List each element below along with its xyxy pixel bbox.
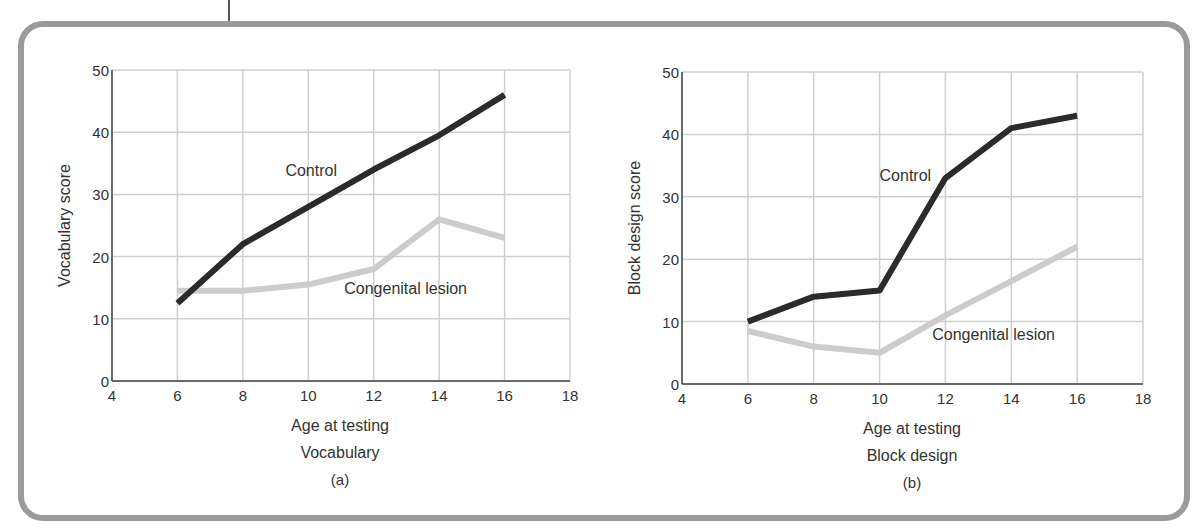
y-tick-label: 30 (92, 186, 109, 203)
x-tick-label: 4 (678, 390, 686, 407)
y-tick-label: 20 (662, 251, 679, 268)
x-tick-label: 18 (1135, 390, 1152, 407)
series-line-control (748, 116, 1077, 322)
series-line-control (177, 95, 504, 303)
x-tick-label: 16 (496, 387, 513, 404)
chart-panel-vocabulary: 468101214161801020304050Vocabulary score… (56, 62, 578, 488)
x-tick-label: 16 (1069, 390, 1086, 407)
panel-label: (a) (331, 471, 349, 488)
y-tick-label: 20 (92, 249, 109, 266)
x-tick-label: 8 (810, 390, 818, 407)
y-tick-label: 10 (662, 314, 679, 331)
figure-frame (21, 24, 1187, 518)
series-label-congenital-lesion: Congenital lesion (344, 280, 467, 297)
y-tick-label: 0 (671, 376, 679, 393)
chart-panel-block-design: 468101214161801020304050Block design sco… (626, 64, 1151, 491)
x-tick-label: 6 (744, 390, 752, 407)
y-tick-label: 30 (662, 189, 679, 206)
x-tick-label: 10 (300, 387, 317, 404)
x-axis-label: Age at testing (291, 417, 389, 434)
y-tick-label: 10 (92, 311, 109, 328)
series-label-control: Control (880, 167, 932, 184)
y-axis-label: Block design score (626, 161, 643, 295)
series-label-control: Control (285, 162, 337, 179)
y-tick-label: 40 (92, 124, 109, 141)
chart-title: Block design (867, 447, 958, 464)
chart-title: Vocabulary (300, 444, 379, 461)
panel-label: (b) (903, 474, 921, 491)
x-tick-label: 6 (173, 387, 181, 404)
y-tick-label: 0 (101, 373, 109, 390)
x-axis-label: Age at testing (863, 420, 961, 437)
y-tick-label: 50 (92, 62, 109, 79)
figure: 468101214161801020304050Vocabulary score… (0, 0, 1199, 532)
x-tick-label: 12 (937, 390, 954, 407)
x-tick-label: 10 (871, 390, 888, 407)
x-tick-label: 12 (365, 387, 382, 404)
x-tick-label: 14 (431, 387, 448, 404)
x-tick-label: 18 (562, 387, 579, 404)
y-tick-label: 40 (662, 126, 679, 143)
x-tick-label: 14 (1003, 390, 1020, 407)
x-tick-label: 8 (239, 387, 247, 404)
y-tick-label: 50 (662, 64, 679, 81)
y-axis-label: Vocabulary score (56, 164, 73, 287)
series-label-congenital-lesion: Congenital lesion (932, 326, 1055, 343)
x-tick-label: 4 (108, 387, 116, 404)
